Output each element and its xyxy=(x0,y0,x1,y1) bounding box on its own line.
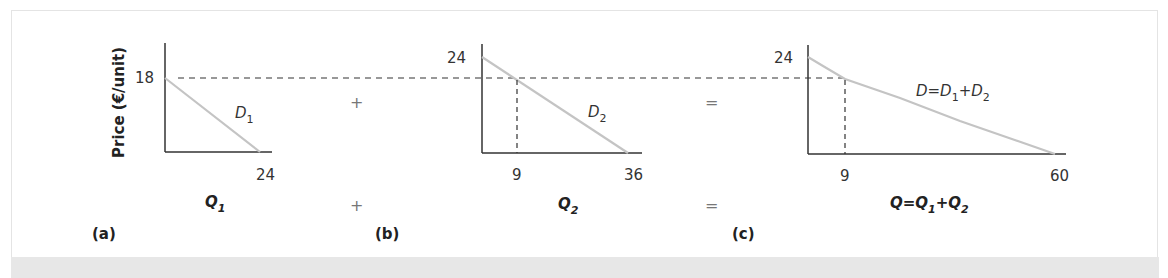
panel-b: 24 9 36 D2 Q2 (b) xyxy=(375,44,643,243)
curve-label: D=D1+D2 xyxy=(916,82,990,104)
plus-operator-top: + xyxy=(350,93,363,112)
plus-operator-bottom: + xyxy=(350,196,363,215)
equals-operator-bottom: = xyxy=(705,196,718,215)
x-tick: 24 xyxy=(256,166,275,184)
x-axis-label: Q=Q1+Q2 xyxy=(890,194,969,216)
y-tick: 24 xyxy=(774,49,793,67)
x-tick-36: 36 xyxy=(624,166,643,184)
y-axis-label: Price (€/unit) xyxy=(110,47,128,158)
curve-label: D1 xyxy=(235,104,254,126)
market-demand-curve xyxy=(808,57,1055,154)
panel-label: (a) xyxy=(92,225,116,243)
y-tick: 18 xyxy=(135,69,154,87)
panel-label: (c) xyxy=(732,225,755,243)
x-tick-9: 9 xyxy=(840,167,850,185)
demand-curve-d2 xyxy=(482,57,628,153)
demand-diagram: Price (€/unit) 18 24 D1 Q1 (a) + + 24 9 … xyxy=(0,0,1168,278)
x-tick-9: 9 xyxy=(512,166,522,184)
y-tick: 24 xyxy=(447,49,466,67)
curve-label: D2 xyxy=(588,103,607,125)
panel-c: 24 9 60 D=D1+D2 Q=Q1+Q2 (c) xyxy=(732,45,1069,243)
x-axis-label: Q1 xyxy=(205,193,225,215)
x-axis-label: Q2 xyxy=(558,195,579,217)
equals-operator-top: = xyxy=(705,93,718,112)
x-tick-60: 60 xyxy=(1050,167,1069,185)
panel-label: (b) xyxy=(375,225,399,243)
